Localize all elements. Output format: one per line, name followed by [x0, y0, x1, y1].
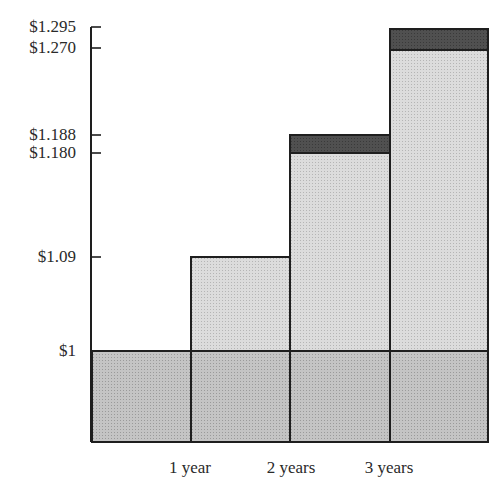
principal-bars	[92, 351, 488, 442]
y-tick-label: $1.270	[0, 39, 76, 56]
y-tick-label: $1	[0, 342, 76, 359]
y-tick-label: $1.188	[0, 126, 76, 143]
y-tick-label: $1.09	[0, 248, 76, 265]
y-tick-label: $1.180	[0, 144, 76, 161]
x-tick-label: 3 years	[344, 459, 434, 476]
simple-interest-bars	[191, 50, 488, 351]
y-axis-ticks	[91, 27, 101, 257]
bar-chart	[0, 0, 494, 489]
y-tick-label: $1.295	[0, 18, 76, 35]
x-tick-label: 2 years	[246, 459, 336, 476]
x-tick-label: 1 year	[145, 459, 235, 476]
